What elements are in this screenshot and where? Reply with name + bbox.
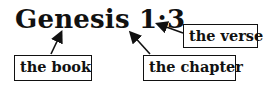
arrow-verse [158, 24, 183, 33]
label-book-text: the book [20, 58, 91, 75]
label-chapter: the chapter [143, 55, 236, 81]
label-book: the book [14, 55, 92, 81]
label-verse: the verse [183, 24, 258, 48]
label-verse-text: the verse [189, 27, 263, 44]
label-chapter-text: the chapter [149, 58, 243, 75]
arrow-chapter [131, 33, 150, 54]
arrow-book [51, 33, 61, 54]
